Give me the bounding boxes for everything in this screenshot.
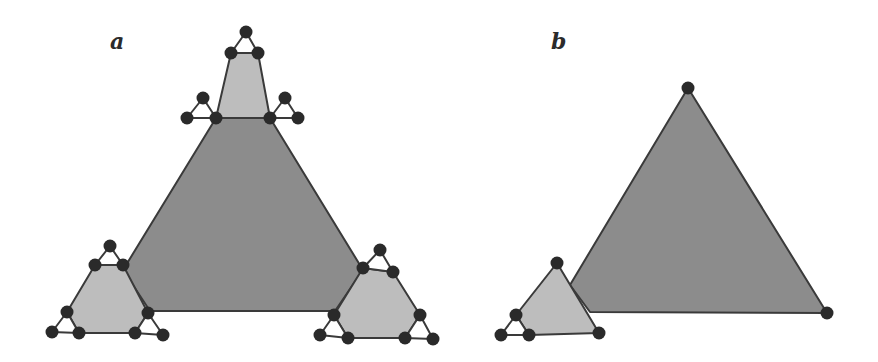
node-a-1-1 [181,112,194,125]
small-triangle-a-0 [216,53,270,118]
node-a-0-0 [240,26,253,39]
node-a-7-0 [328,309,341,322]
node-a-6-0 [374,244,387,257]
node-a-3-2 [117,259,130,272]
node-a-2-1 [264,112,277,125]
figure: a b [0,0,878,362]
node-a-5-0 [142,307,155,320]
large-triangle-b [570,88,827,313]
node-a-4-1 [46,326,59,339]
node-b-6 [523,329,536,342]
node-a-3-0 [104,240,117,253]
node-a-0-2 [252,47,265,60]
node-b-0 [682,82,695,95]
node-a-3-1 [89,259,102,272]
node-a-7-2 [342,332,355,345]
node-a-8-1 [399,332,412,345]
node-a-1-2 [210,112,223,125]
node-a-8-2 [427,333,440,346]
fractal-triangle-diagram [0,0,878,362]
node-b-5 [495,329,508,342]
node-a-8-0 [414,309,427,322]
node-a-5-1 [129,327,142,340]
node-a-2-2 [292,112,305,125]
panel-label-b: b [551,28,566,54]
node-b-3 [593,327,606,340]
node-b-2 [551,257,564,270]
panel-label-a: a [110,28,124,54]
large-triangle-a [123,118,363,311]
node-a-7-1 [314,329,327,342]
node-a-0-1 [225,47,238,60]
node-b-1 [821,307,834,320]
node-a-4-2 [73,327,86,340]
node-a-2-0 [279,92,292,105]
node-b-4 [510,309,523,322]
node-a-6-1 [357,262,370,275]
node-a-4-0 [61,306,74,319]
node-a-5-2 [157,329,170,342]
node-a-6-2 [387,266,400,279]
node-a-1-0 [197,92,210,105]
